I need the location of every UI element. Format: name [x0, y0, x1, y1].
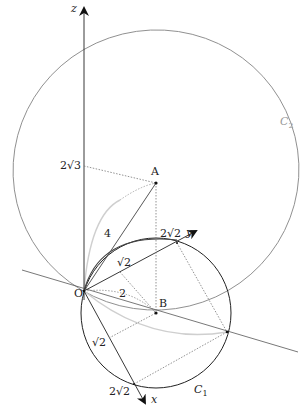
z-axis-label: z	[71, 3, 77, 14]
dotted-x-mid-to-B	[109, 313, 156, 338]
curve-C2-label: C2	[280, 116, 294, 130]
point-B	[154, 311, 157, 314]
point-intersection	[226, 331, 229, 334]
y-intercept-label: 2√2	[160, 228, 181, 239]
point-A	[154, 181, 157, 184]
dotted-x-point-to-P	[134, 332, 227, 384]
z-height-label: 2√3	[60, 160, 81, 171]
OB-length-label: 2	[119, 288, 126, 299]
diagram-svg	[0, 0, 304, 414]
y-inner-radius-label: √2	[117, 257, 131, 268]
dotted-z-to-A	[84, 166, 156, 183]
point-x-intercept	[133, 383, 135, 385]
point-y-intercept	[176, 242, 178, 244]
point-B-label: B	[159, 298, 167, 309]
curve-C2-subscript: 2	[288, 121, 293, 130]
curve-C1-label: C1	[194, 384, 208, 398]
diagram-canvas: z y x O A B 2√3 4 2 √2 2√2 √2 2√2 C1 C2	[0, 0, 304, 414]
point-O	[83, 290, 86, 293]
x-intercept-label: 2√2	[109, 386, 130, 397]
segment-OA	[84, 183, 156, 291]
point-A-label: A	[151, 166, 159, 177]
plane-trace-line	[22, 270, 298, 352]
x-inner-radius-label: √2	[92, 337, 106, 348]
x-axis-label: x	[151, 394, 157, 405]
origin-label: O	[74, 288, 83, 299]
y-axis-label: y	[186, 227, 192, 238]
OA-length-label: 4	[104, 228, 111, 239]
curve-C1-subscript: 1	[202, 389, 207, 398]
